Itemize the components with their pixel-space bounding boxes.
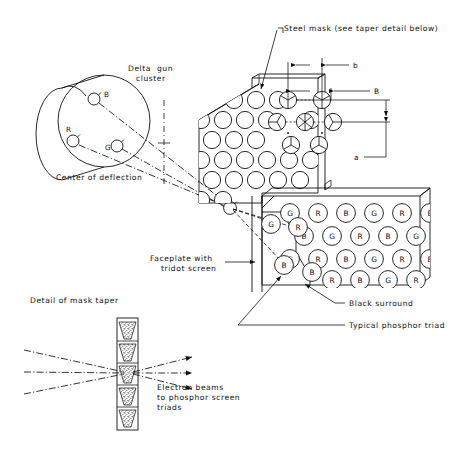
- phosphor-dot-partial: B: [275, 256, 294, 275]
- mask-hole: [203, 171, 220, 188]
- mask-hole: [291, 171, 308, 188]
- phosphor-dot: G: [365, 204, 384, 223]
- phosphor-dot: G: [379, 271, 398, 290]
- svg-text:G: G: [371, 209, 377, 218]
- triad-hole: [282, 136, 299, 153]
- mask-hole: [192, 151, 209, 168]
- phosphor-dot: R: [435, 227, 454, 246]
- phosphor-dot-partial: G: [262, 215, 281, 234]
- mask-hole: [225, 91, 242, 108]
- svg-text:R: R: [315, 209, 320, 218]
- gun-aperture-b-tick: [99, 93, 102, 96]
- svg-text:R: R: [399, 255, 404, 264]
- taper-beam-in-mid: [24, 372, 124, 373]
- triad-hole: [324, 113, 341, 130]
- svg-text:B: B: [427, 209, 432, 218]
- gun-label-g: G: [105, 143, 111, 152]
- steel-mask-label: Steel mask (see taper detail below): [284, 24, 438, 33]
- phosphor-dot: B: [379, 227, 398, 246]
- taper-aperture: [119, 410, 136, 427]
- svg-text:R: R: [399, 209, 404, 218]
- steel-mask-leader: [261, 30, 277, 89]
- black-surround-label: Black surround: [349, 299, 413, 308]
- diagram-root: B R G Delta gun cluster Center of deflec…: [0, 0, 466, 465]
- delta-gun-cluster-label-line2: cluster: [136, 74, 166, 83]
- svg-text:B: B: [281, 261, 286, 270]
- triad-hole: [268, 113, 285, 130]
- mask-hole: [225, 171, 242, 188]
- phosphor-dot: R: [393, 204, 412, 223]
- mask-taper-detail: Detail of mask taper Electron beams to p…: [24, 296, 240, 430]
- phosphor-triad-grid: G R B G R B B G R B G R G R B G: [262, 204, 454, 290]
- svg-text:B: B: [441, 276, 446, 285]
- svg-text:B: B: [343, 209, 348, 218]
- steel-mask-callout: Steel mask (see taper detail below): [261, 24, 438, 89]
- mask-hole: [214, 111, 231, 128]
- svg-text:G: G: [413, 232, 419, 241]
- crt-shadow-mask-diagram: B R G Delta gun cluster Center of deflec…: [0, 0, 466, 465]
- svg-text:R: R: [413, 276, 418, 285]
- svg-text:G: G: [329, 232, 335, 241]
- svg-text:B: B: [309, 268, 314, 277]
- mask-hole: [192, 191, 209, 208]
- faceplate-label-line2: tridot screen: [161, 264, 216, 273]
- faceplate-corner-chamfer: [262, 196, 274, 208]
- svg-text:G: G: [287, 209, 293, 218]
- faceplate-top-edge: [262, 188, 430, 196]
- mask-hole: [225, 131, 242, 148]
- phosphor-dot: B: [435, 271, 454, 290]
- svg-text:G: G: [268, 220, 274, 229]
- triad-wedge-hole-cluster: [268, 91, 341, 153]
- triad-dot: [287, 132, 289, 134]
- mask-hole: [280, 151, 297, 168]
- steel-mask-lip-top: [252, 74, 325, 78]
- faceplate-phosphor-screen: G R B G R B B G R B G R G R B G: [252, 188, 453, 292]
- svg-text:B: B: [343, 255, 348, 264]
- phosphor-dot: B: [337, 204, 356, 223]
- svg-text:G: G: [371, 255, 377, 264]
- center-of-deflection-label: Center of deflection: [56, 173, 142, 182]
- mask-hole: [258, 151, 275, 168]
- phosphor-dot-partial: B: [303, 263, 322, 282]
- phosphor-dot: R: [351, 227, 370, 246]
- delta-gun-cluster-label-line1: Delta gun: [128, 64, 173, 73]
- phosphor-dot: B: [421, 204, 440, 223]
- phosphor-dot: B: [351, 271, 370, 290]
- svg-text:G: G: [385, 276, 391, 285]
- gun-cylinder-top-edge: [62, 75, 104, 88]
- dim-label-b: b: [353, 61, 358, 70]
- taper-aperture: [119, 388, 136, 405]
- mask-hole: [214, 151, 231, 168]
- svg-text:R: R: [441, 232, 446, 241]
- phosphor-dot: G: [323, 227, 342, 246]
- taper-beam-out-top: [133, 357, 192, 372]
- phosphor-row: R B G R B: [323, 271, 454, 290]
- taper-aperture: [119, 344, 136, 361]
- typical-phosphor-triad-label: Typical phosphor triad: [348, 321, 445, 330]
- phosphor-dot-partial: R: [289, 218, 308, 237]
- phosphor-dot: G: [365, 250, 384, 269]
- taper-beam-in-top: [24, 350, 124, 372]
- phosphor-dot: R: [309, 204, 328, 223]
- taper-aperture: [119, 322, 136, 339]
- electron-beams-label-line1: Electron beams: [157, 383, 224, 392]
- beam-b: [99, 103, 230, 206]
- detail-of-mask-taper-label: Detail of mask taper: [30, 296, 119, 305]
- svg-text:R: R: [357, 232, 362, 241]
- gun-aperture-b: [88, 93, 100, 105]
- phosphor-dot: G: [407, 227, 426, 246]
- faceplate-label-line1: Faceplate with: [150, 254, 213, 263]
- mask-hole: [236, 151, 253, 168]
- gun-cylinder-back-arc: [36, 88, 62, 180]
- svg-text:R: R: [295, 223, 300, 232]
- gun-cylinder-back-arc-top: [62, 86, 86, 96]
- steel-mask-panel: Steel mask (see taper detail below) b B …: [192, 24, 438, 209]
- dim-a-leader: [364, 140, 386, 157]
- mask-hole: [247, 91, 264, 108]
- mask-hole: [247, 171, 264, 188]
- svg-text:R: R: [329, 276, 334, 285]
- mask-hole: [236, 111, 253, 128]
- gun-aperture-r-tick: [78, 135, 81, 138]
- mask-hole: [302, 151, 319, 168]
- phosphor-dot: R: [407, 271, 426, 290]
